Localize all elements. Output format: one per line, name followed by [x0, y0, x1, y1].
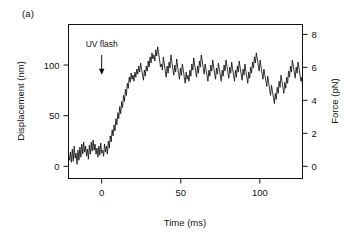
x-tick-label: 50: [175, 187, 186, 198]
y2-axis-title: Force (pN): [329, 78, 340, 123]
x-axis-ticks: 050100: [99, 179, 268, 198]
panel-label: (a): [22, 8, 34, 19]
y2-axis-ticks: 02468: [303, 29, 317, 172]
y-axis-title: Displacement (nm): [15, 61, 26, 141]
down-arrow-icon-head: [99, 69, 105, 75]
y2-tick-label: 8: [312, 29, 317, 40]
y2-tick-label: 0: [312, 161, 317, 172]
y2-tick-label: 4: [312, 95, 317, 106]
uv-flash-label: UV flash: [86, 39, 118, 49]
y-axis-ticks: 050100: [44, 60, 69, 172]
y2-tick-label: 2: [312, 128, 317, 139]
chart-canvas: 050100 050100 02468 UV flash Time (ms) D…: [0, 0, 354, 238]
y2-tick-label: 6: [312, 62, 317, 73]
x-tick-label: 0: [99, 187, 104, 198]
x-tick-label: 100: [252, 187, 268, 198]
y-tick-label: 50: [49, 110, 60, 121]
y-tick-label: 100: [44, 60, 60, 71]
uv-flash-annotation: UV flash: [86, 39, 118, 75]
y-tick-label: 0: [54, 161, 59, 172]
displacement-trace: [69, 47, 303, 165]
figure-panel: (a) 050100 050100 02468 UV flash Time (m…: [0, 0, 354, 238]
x-axis-title: Time (ms): [164, 217, 206, 228]
data-trace-group: [69, 47, 303, 165]
